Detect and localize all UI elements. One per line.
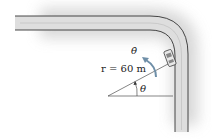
theta-dot-arrow xyxy=(146,60,156,77)
theta-arc-arrowhead xyxy=(134,81,138,85)
road-center-line xyxy=(20,23,182,130)
road-inner-edge xyxy=(15,30,175,132)
theta-dot-label: θ̇ xyxy=(131,45,137,56)
radius-label: r = 60 m xyxy=(101,63,146,74)
theta-label: θ xyxy=(140,83,146,94)
